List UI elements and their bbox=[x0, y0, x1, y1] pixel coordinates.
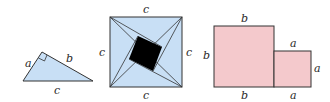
small-square bbox=[274, 51, 311, 87]
big-left-label: b bbox=[203, 49, 210, 62]
small-right-label: a bbox=[314, 62, 321, 75]
small-bottom-label: a bbox=[290, 89, 297, 102]
big-square bbox=[214, 26, 274, 87]
pythagorean-proof-diagram: a b c c c c c b b b a a a bbox=[0, 0, 330, 102]
pinwheel-square: c c c c bbox=[99, 3, 192, 102]
side-b-label: b bbox=[66, 52, 73, 65]
left-c-label: c bbox=[99, 46, 105, 59]
big-top-label: b bbox=[241, 12, 248, 25]
right-triangle: a b c bbox=[23, 52, 93, 97]
right-c-label: c bbox=[186, 46, 192, 59]
side-a-label: a bbox=[25, 57, 32, 70]
bottom-c-label: c bbox=[143, 89, 149, 102]
big-bottom-label: b bbox=[241, 89, 248, 102]
top-c-label: c bbox=[143, 3, 149, 16]
two-squares: b b b a a a bbox=[203, 12, 321, 102]
small-top-label: a bbox=[290, 37, 297, 50]
side-c-label: c bbox=[54, 84, 60, 97]
